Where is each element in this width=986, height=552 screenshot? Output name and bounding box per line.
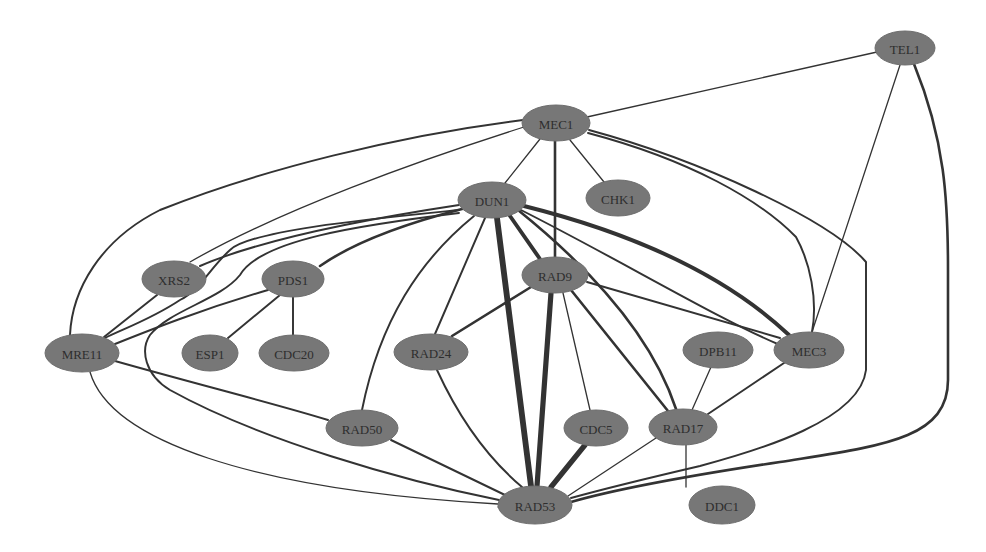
node-label: CDC20	[274, 347, 314, 362]
edge-dun1-rad50	[362, 216, 474, 410]
node-label: CHK1	[601, 192, 635, 207]
edge-pds1-esp1	[228, 295, 280, 338]
node-mre11: MRE11	[45, 334, 119, 372]
node-ddc1: DDC1	[689, 486, 755, 524]
node-label: MEC1	[539, 117, 574, 132]
node-rad24: RAD24	[394, 334, 468, 370]
node-rad9: RAD9	[522, 257, 588, 293]
node-label: MEC3	[792, 344, 827, 359]
node-label: RAD53	[515, 499, 555, 514]
edge-dun1-rad53	[497, 218, 531, 486]
node-rad50: RAD50	[326, 410, 398, 446]
node-xrs2: XRS2	[142, 261, 206, 297]
edge-tel1-mec3	[812, 65, 900, 332]
node-label: RAD9	[538, 269, 572, 284]
node-label: RAD50	[342, 422, 382, 437]
node-label: RAD17	[663, 421, 704, 436]
node-pds1: PDS1	[262, 261, 324, 297]
node-chk1: CHK1	[586, 180, 650, 216]
interaction-network-diagram: TEL1MEC1DUN1CHK1XRS2PDS1RAD9MRE11ESP1CDC…	[0, 0, 986, 552]
node-cdc5: CDC5	[564, 410, 628, 446]
node-label: RAD24	[411, 346, 452, 361]
edge-mre11-rad53	[90, 372, 498, 504]
edge-dun1-rad24	[435, 218, 485, 334]
node-dpb11: DPB11	[683, 332, 753, 368]
node-label: DDC1	[705, 499, 739, 514]
node-label: DUN1	[475, 194, 510, 209]
edge-rad9-mec3	[587, 282, 780, 338]
node-label: ESP1	[196, 347, 225, 362]
node-esp1: ESP1	[182, 335, 238, 371]
edge-mec1-mec3	[588, 133, 814, 332]
edge-pds1-mre11	[115, 290, 268, 344]
node-tel1: TEL1	[875, 31, 935, 65]
node-dun1: DUN1	[458, 182, 526, 218]
edge-rad50-rad53	[391, 440, 505, 495]
edge-dpb11-rad17	[692, 367, 711, 410]
edge-mec1-chk1	[570, 140, 604, 182]
edge-tel1-rad53	[571, 64, 948, 502]
edge-mec1-tel1	[587, 52, 877, 117]
node-rad53: RAD53	[498, 486, 572, 524]
node-mec3: MEC3	[774, 332, 844, 368]
node-label: PDS1	[278, 273, 308, 288]
node-layer: TEL1MEC1DUN1CHK1XRS2PDS1RAD9MRE11ESP1CDC…	[45, 31, 935, 524]
node-rad17: RAD17	[649, 409, 717, 445]
node-label: XRS2	[158, 273, 190, 288]
edge-dun1-rad17	[518, 210, 676, 409]
node-label: DPB11	[699, 344, 737, 359]
edge-rad9-rad53	[537, 293, 551, 486]
node-mec1: MEC1	[522, 105, 590, 141]
node-label: TEL1	[890, 42, 920, 57]
node-cdc20: CDC20	[259, 335, 329, 371]
node-label: CDC5	[579, 422, 612, 437]
edge-rad24-rad9	[452, 287, 531, 336]
edge-mec1-dun1	[505, 139, 540, 183]
edge-cdc5-rad53	[551, 445, 585, 487]
edge-dun1-rad9	[510, 216, 540, 259]
node-label: MRE11	[62, 347, 103, 362]
edge-mec1-mre11	[70, 120, 523, 335]
edge-rad24-rad53	[437, 370, 522, 487]
edge-mec3-rad17	[708, 363, 784, 414]
